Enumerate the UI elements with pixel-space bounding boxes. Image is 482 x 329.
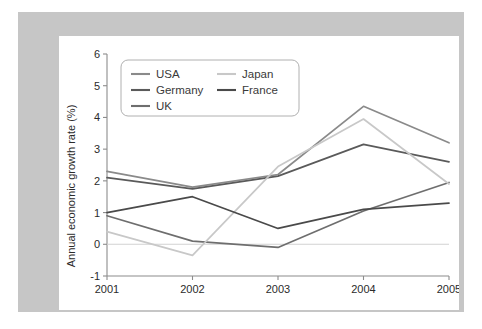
x-tick-label: 2002 — [180, 283, 204, 295]
y-tick-label: 2 — [94, 175, 100, 187]
x-tick-label: 2005 — [437, 283, 459, 295]
plot-card: -10123456 20012002200320042005 Annual ec… — [59, 36, 459, 310]
series-lines — [107, 106, 449, 255]
y-tick-label: 6 — [94, 48, 100, 60]
y-tick-label: 4 — [94, 111, 100, 123]
x-axis: 20012002200320042005 — [95, 276, 459, 295]
y-tick-label: 3 — [94, 143, 100, 155]
figure-border-mat: -10123456 20012002200320042005 Annual ec… — [18, 12, 464, 312]
legend-label-usa: USA — [156, 68, 180, 80]
series-line-japan — [107, 119, 449, 255]
legend-label-germany: Germany — [156, 84, 204, 96]
legend-label-japan: Japan — [242, 68, 273, 80]
y-axis: -10123456 — [90, 48, 107, 282]
y-axis-title: Annual economic growth rate (%) — [65, 105, 77, 268]
series-line-uk — [107, 182, 449, 247]
legend-label-uk: UK — [156, 100, 172, 112]
y-tick-label: -1 — [90, 270, 100, 282]
y-tick-label: 1 — [94, 207, 100, 219]
chart-legend: USAGermanyUKJapanFrance — [121, 60, 299, 116]
series-line-usa — [107, 106, 449, 187]
series-line-france — [107, 197, 449, 229]
legend-label-france: France — [242, 84, 278, 96]
x-tick-label: 2001 — [95, 283, 119, 295]
figure-container: -10123456 20012002200320042005 Annual ec… — [0, 0, 482, 329]
x-tick-label: 2003 — [266, 283, 290, 295]
y-tick-label: 0 — [94, 238, 100, 250]
y-tick-label: 5 — [94, 80, 100, 92]
x-tick-label: 2004 — [351, 283, 375, 295]
economic-growth-line-chart: -10123456 20012002200320042005 Annual ec… — [59, 36, 459, 310]
